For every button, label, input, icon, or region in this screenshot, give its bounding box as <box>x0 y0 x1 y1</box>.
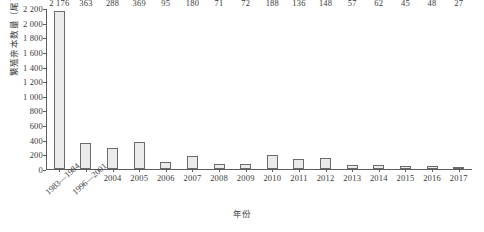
x-tick-label: 2009 <box>237 173 255 183</box>
x-tick-mark <box>86 169 87 172</box>
bar-value-label: 45 <box>401 0 410 8</box>
plot-area: 02004006008001 0001 2001 4001 6001 8002 … <box>46 9 472 170</box>
x-tick-label: 2010 <box>263 173 281 183</box>
bar-value-label: 2 176 <box>49 0 69 8</box>
bar-value-label: 188 <box>266 0 279 8</box>
x-tick-mark <box>405 169 406 172</box>
bar-slot: 369 <box>126 9 153 169</box>
y-tick-label: 1 000 <box>23 92 43 102</box>
x-tick-mark <box>113 169 114 172</box>
x-label-slot: 2010 <box>259 173 286 193</box>
x-tick-label: 2012 <box>317 173 335 183</box>
bar-slot: 71 <box>206 9 233 169</box>
x-label-slot: 2014 <box>366 173 393 193</box>
x-tick-label: 2006 <box>157 173 175 183</box>
bar-series: 2 17636328836995180717218813614857624548… <box>46 9 472 169</box>
bar-value-label: 48 <box>428 0 437 8</box>
x-tick-mark <box>352 169 353 172</box>
bar[interactable]: 2 176 <box>54 11 65 169</box>
bar-slot: 72 <box>232 9 259 169</box>
x-label-slot: 2006 <box>153 173 180 193</box>
y-tick-label: 1 600 <box>23 48 43 58</box>
y-tick-label: 800 <box>30 106 43 116</box>
x-tick-mark <box>59 169 60 172</box>
bar[interactable]: 148 <box>320 158 331 169</box>
bar-slot: 48 <box>419 9 446 169</box>
bar[interactable]: 369 <box>134 142 145 169</box>
bar-slot: 95 <box>153 9 180 169</box>
x-label-slot: 2004 <box>99 173 126 193</box>
bar-slot: 148 <box>312 9 339 169</box>
x-label-slot: 2008 <box>206 173 233 193</box>
bar-chart: 繁殖亲本数量（尾） 02004006008001 0001 2001 4001 … <box>0 0 484 232</box>
bar-value-label: 136 <box>292 0 305 8</box>
x-tick-label: 2011 <box>290 173 308 183</box>
x-tick-label: 2016 <box>423 173 441 183</box>
bar-value-label: 369 <box>133 0 146 8</box>
x-label-slot: 2013 <box>339 173 366 193</box>
x-tick-label: 2014 <box>370 173 388 183</box>
x-tick-mark <box>272 169 273 172</box>
bar[interactable]: 95 <box>160 162 171 169</box>
bar-value-label: 288 <box>106 0 119 8</box>
bar-value-label: 72 <box>241 0 250 8</box>
y-tick-label: 600 <box>30 121 43 131</box>
y-tick-label: 2 000 <box>23 19 43 29</box>
bar[interactable]: 180 <box>187 156 198 169</box>
x-label-slot: 2009 <box>232 173 259 193</box>
x-label-slot: 2005 <box>126 173 153 193</box>
bar-value-label: 363 <box>79 0 92 8</box>
bar-slot: 188 <box>259 9 286 169</box>
bar-value-label: 71 <box>215 0 224 8</box>
x-tick-mark <box>219 169 220 172</box>
y-tick-mark <box>43 170 46 171</box>
y-tick-label: 400 <box>30 136 43 146</box>
bar-value-label: 57 <box>348 0 357 8</box>
x-label-slot: 2016 <box>419 173 446 193</box>
x-tick-mark <box>326 169 327 172</box>
bar-value-label: 95 <box>161 0 170 8</box>
x-tick-mark <box>246 169 247 172</box>
x-label-slot: 2011 <box>286 173 313 193</box>
bar[interactable]: 136 <box>293 159 304 169</box>
bar-value-label: 27 <box>454 0 463 8</box>
bar-slot: 27 <box>445 9 472 169</box>
x-tick-mark <box>432 169 433 172</box>
bar[interactable]: 363 <box>80 143 91 169</box>
x-axis-tick-labels: 1983—19841996—20012004200520062007200820… <box>46 173 472 193</box>
x-tick-label: 2008 <box>210 173 228 183</box>
x-tick-label: 2004 <box>104 173 122 183</box>
bar-slot: 180 <box>179 9 206 169</box>
x-tick-mark <box>459 169 460 172</box>
x-label-slot: 1996—2001 <box>73 173 100 193</box>
x-tick-label: 2007 <box>184 173 202 183</box>
x-tick-label: 2005 <box>130 173 148 183</box>
y-tick-label: 200 <box>30 150 43 160</box>
x-tick-mark <box>379 169 380 172</box>
bar[interactable]: 188 <box>267 155 278 169</box>
x-tick-label: 2013 <box>343 173 361 183</box>
x-label-slot: 2007 <box>179 173 206 193</box>
bar-slot: 2 176 <box>46 9 73 169</box>
y-tick-label: 1 200 <box>23 77 43 87</box>
bar-slot: 136 <box>286 9 313 169</box>
x-axis-title: 年份 <box>0 207 484 219</box>
x-label-slot: 2015 <box>392 173 419 193</box>
x-axis-line <box>46 169 472 170</box>
bar-value-label: 148 <box>319 0 332 8</box>
bar-value-label: 62 <box>374 0 383 8</box>
y-tick-label: 1 400 <box>23 63 43 73</box>
bar-slot: 363 <box>73 9 100 169</box>
x-tick-mark <box>166 169 167 172</box>
x-label-slot: 1983—1984 <box>46 173 73 193</box>
x-tick-mark <box>192 169 193 172</box>
x-tick-mark <box>139 169 140 172</box>
y-tick-label: 2 200 <box>23 4 43 14</box>
bar[interactable]: 288 <box>107 148 118 169</box>
bar-slot: 62 <box>366 9 393 169</box>
bar-slot: 45 <box>392 9 419 169</box>
x-tick-mark <box>299 169 300 172</box>
y-axis-title: 繁殖亲本数量（尾） <box>7 0 19 94</box>
bar-slot: 288 <box>99 9 126 169</box>
x-label-slot: 2017 <box>445 173 472 193</box>
